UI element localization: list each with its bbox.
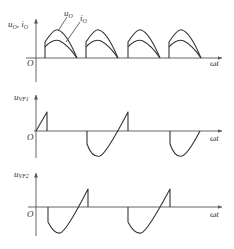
panel-output: uO, iO O ωt uO iO <box>8 8 222 82</box>
origin-label: O <box>27 209 34 219</box>
waveform-diagram: uO, iO O ωt uO iO uVF1 O ωt uVF2 O ωt <box>0 0 234 249</box>
origin-label: O <box>27 132 34 142</box>
origin-label: O <box>27 58 34 68</box>
y-axis-label: uO, iO <box>8 19 29 30</box>
uo-leader <box>58 17 67 31</box>
io-curve-label: iO <box>80 13 88 24</box>
uo-curve-label: uO <box>64 8 74 19</box>
io-leader <box>66 22 80 42</box>
y-axis-label: uVF1 <box>14 92 29 102</box>
vf2-waveform <box>48 189 170 233</box>
io-waveform <box>45 40 201 58</box>
panel-vf2: uVF2 O ωt <box>14 169 222 236</box>
x-axis-label: ωt <box>210 58 219 68</box>
uo-waveform <box>45 30 201 58</box>
y-axis-label: uVF2 <box>14 169 29 179</box>
x-axis-label: ωt <box>210 209 219 219</box>
x-axis-label: ωt <box>210 133 219 143</box>
panel-vf1: uVF1 O ωt <box>14 92 222 158</box>
vf1-waveform <box>36 112 200 156</box>
